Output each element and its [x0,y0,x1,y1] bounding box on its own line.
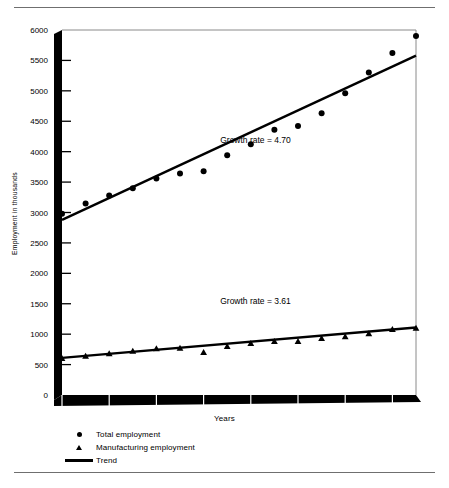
top-divider-rule [14,7,435,8]
data-point-circle [177,171,183,177]
y-axis-tick-label: 4500 [30,117,48,126]
y-axis-tick-label: 2000 [30,269,48,278]
chart-annotation: Growth rate = 3.61 [220,296,291,306]
y-axis-tick-label: 4000 [30,148,48,157]
y-axis-tick-label: 6000 [30,26,48,35]
triangle-marker-icon [62,445,96,450]
x-axis-title: Years [0,414,449,423]
circle-marker-icon [62,432,96,437]
y-axis-tick-label: 1500 [30,300,48,309]
legend-item-manufacturing-employment: Manufacturing employment [62,441,322,454]
y-axis-title: Employment in thousands [11,144,18,284]
y-axis-tick-label: 0 [44,391,49,400]
legend-label-manufacturing-employment: Manufacturing employment [96,443,195,452]
line-marker-icon [62,459,96,462]
data-point-circle [389,50,395,56]
legend-label-trend: Trend [96,456,117,465]
plot-frame [62,30,416,395]
data-point-circle [106,192,112,198]
legend-label-total-employment: Total employment [96,430,160,439]
legend-item-total-employment: Total employment [62,428,322,441]
data-point-circle [83,200,89,206]
y-axis-tick-label: 3000 [30,209,48,218]
data-point-circle [201,168,207,174]
y-axis-tick-label: 1000 [30,330,48,339]
data-point-circle [271,127,277,133]
data-point-triangle [153,345,160,351]
data-point-circle [224,152,230,158]
data-point-circle [59,211,65,217]
y-axis-tick-label: 5500 [30,56,48,65]
data-point-circle [153,175,159,181]
bottom-divider-rule [14,472,435,473]
chart-figure: 0500100015002000250030003500400045005000… [0,0,449,488]
chart-legend: Total employment Manufacturing employmen… [62,428,322,467]
data-point-circle [413,33,419,39]
trend-line [62,327,416,357]
data-point-circle [366,70,372,76]
y-axis-tick-label: 3500 [30,178,48,187]
data-point-circle [295,123,301,129]
data-point-circle [319,110,325,116]
y-axis-tick-label: 5000 [30,87,48,96]
data-point-circle [130,185,136,191]
y-axis-tick-label: 2500 [30,239,48,248]
y-axis-tick-label: 500 [35,361,49,370]
chart-annotation: Growth rate = 4.70 [220,135,291,145]
data-point-triangle [200,349,207,355]
legend-item-trend: Trend [62,454,322,467]
data-point-circle [342,90,348,96]
chart-canvas: 0500100015002000250030003500400045005000… [0,14,449,414]
plot-area: 0500100015002000250030003500400045005000… [0,14,449,414]
